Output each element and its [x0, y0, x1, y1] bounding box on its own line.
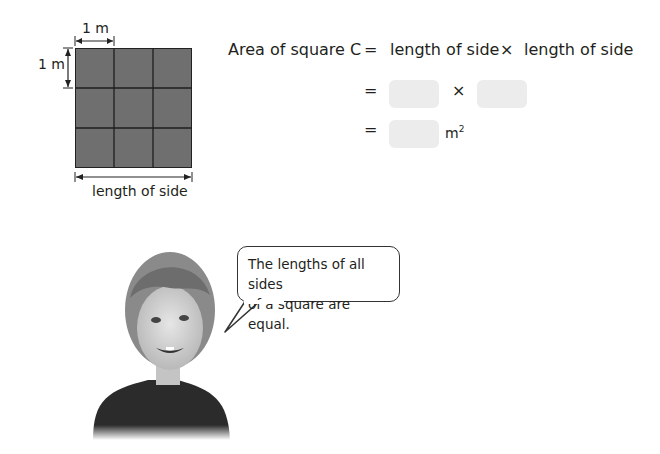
square-c-grid	[75, 48, 192, 168]
grid-lines	[75, 48, 192, 168]
equals-sign-2: =	[364, 81, 377, 100]
bottom-dimension-arrow-icon	[74, 172, 194, 182]
child-photo	[88, 240, 238, 440]
equals-sign-1: =	[364, 40, 377, 59]
equals-sign-3: =	[364, 120, 377, 139]
equation-term-1: length of side	[390, 40, 499, 59]
answer-blank-side-2[interactable]	[477, 80, 527, 108]
unit-m: m	[445, 125, 459, 141]
top-dimension-arrow-icon	[70, 36, 120, 46]
multiply-sign-1: ×	[500, 40, 513, 59]
multiply-sign-2: ×	[452, 81, 465, 100]
area-unit: m2	[445, 124, 464, 141]
bubble-tail-joint	[244, 300, 284, 304]
equation-term-2: length of side	[524, 40, 633, 59]
unit-exponent: 2	[459, 124, 465, 134]
length-of-side-label: length of side	[92, 183, 188, 199]
top-unit-label: 1 m	[82, 20, 109, 36]
left-unit-label: 1 m	[38, 56, 65, 72]
speech-bubble: The lengths of all sides of a square are…	[237, 246, 400, 302]
left-dimension-arrow-icon	[63, 45, 73, 91]
answer-blank-side-1[interactable]	[389, 80, 439, 108]
speech-line-1: The lengths of all sides	[248, 254, 389, 294]
answer-blank-area[interactable]	[389, 120, 439, 148]
equation-lhs: Area of square C	[228, 40, 361, 59]
